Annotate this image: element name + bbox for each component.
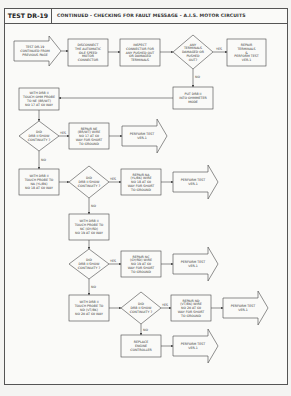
- repair2-box: REPAIR NA(YL/BK) WIRENO 18 AT 60WAY FOR …: [121, 169, 161, 195]
- repair-terminals-box: REPAIRTERMINALS&PERFORM TESTVER-1: [227, 39, 266, 66]
- inspect-box: INSPECTCONNECTOR FORANY PUSHED OUTOR DAM…: [120, 39, 160, 66]
- node-text: REPAIR NA(YL/BK) WIRENO 18 AT 60WAY FOR …: [128, 173, 154, 192]
- probe4-box: WITH DRB IITOUCH PROBE TOND (VT/BK)NO 20…: [69, 295, 109, 321]
- yes-label: YES: [162, 303, 168, 307]
- continuity3-diamond: DIDDRB II SHOWCONTINUITY ?: [69, 249, 109, 279]
- yes-label: YES: [110, 259, 116, 263]
- perform-ver1-arrow: PERFORM TESTVER-1: [122, 119, 167, 153]
- continuity2-diamond: DIDDRB II SHOWCONTINUITY ?: [69, 166, 109, 198]
- continuity4-diamond: DIDDRB II SHOWCONTINUITY ?: [121, 292, 161, 324]
- no-label: NO: [91, 285, 96, 289]
- no-label: NO: [91, 204, 96, 208]
- perform-ver1-arrow: PERFORM TESTVER-1: [173, 247, 218, 281]
- diagram-frame: TEST DR-19 CONTINUED - CHECKING FOR FAUL…: [4, 8, 288, 385]
- repair1-box: REPAIR NE(BR/WT) WIRENO 17 AT 60WAY FOR …: [69, 123, 109, 149]
- perform-ver1-arrow: PERFORM TESTVER-1: [223, 291, 268, 325]
- probe2-box: WITH DRB IITOUCH PROBE TONA (YL/BK)NO 18…: [19, 169, 59, 195]
- perform-ver1-arrow: PERFORM TESTVER-1: [173, 165, 218, 199]
- no-label: NO: [195, 75, 200, 79]
- repair3-box: REPAIR NC(GY/RD) WIRENO 19 AT 60WAY FOR …: [121, 251, 161, 277]
- yes-label: YES: [110, 177, 116, 181]
- any-damaged-diamond: ANYTERMINALSDAMAGED ORPUSHEDOUT?: [173, 35, 213, 69]
- node-text: REPAIR NE(BR/WT) WIRENO 17 AT 60WAY FOR …: [76, 127, 102, 146]
- probe1-box: WITH DRB IITOUCH OHM PROBETO NE (BR/WT)N…: [19, 88, 59, 110]
- flowchart: TEST DR-19CONTINUED FROMPREVIOUS PAGE DI…: [5, 9, 287, 384]
- repair4-box: REPAIR ND(VT/BK) WIRENO 20 AT 60WAY FOR …: [171, 295, 211, 321]
- perform-ver1-arrow: PERFORM TESTVER-1: [173, 329, 218, 363]
- ohmmeter-box: PUT DRB IIINTO OHMMETERMODE: [173, 87, 213, 109]
- no-label: NO: [143, 328, 148, 332]
- node-text: REPAIR NC(GY/RD) WIRENO 19 AT 60WAY FOR …: [128, 255, 154, 274]
- node-text: REPAIR ND(VT/BK) WIRENO 20 AT 60WAY FOR …: [178, 299, 204, 318]
- start-arrow: TEST DR-19CONTINUED FROMPREVIOUS PAGE: [14, 36, 61, 66]
- disconnect-box: DISCONNECTTHE AUTOMATICIDLE SPEEDMOTORCO…: [68, 39, 108, 66]
- yes-label: YES: [216, 47, 222, 51]
- no-label: NO: [41, 158, 46, 162]
- replace-controller-box: REPLACEENGINECONTROLLER: [121, 335, 161, 357]
- continuity1-diamond: DIDDRB II SHOWCONTINUITY ?: [19, 121, 59, 151]
- probe3-box: WITH DRB IITOUCH PROBE TONC (GY/RD)NO 19…: [69, 214, 109, 240]
- yes-label: YES: [60, 131, 66, 135]
